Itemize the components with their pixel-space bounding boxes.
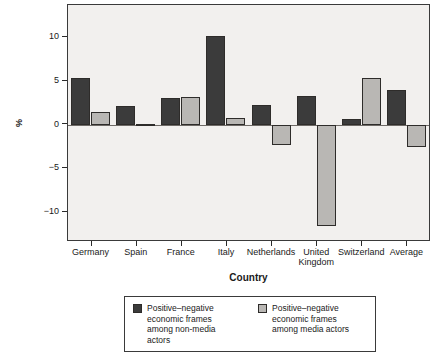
y-axis: 1050−5−10 xyxy=(38,0,67,250)
bar-italy-series2 xyxy=(226,118,245,125)
x-tick-mark xyxy=(181,241,182,246)
chart-legend: Positive–negativeeconomic framesamong no… xyxy=(124,296,376,352)
x-tick-mark xyxy=(226,241,227,246)
bar-netherlands-series1 xyxy=(252,105,271,125)
x-tick-mark xyxy=(316,241,317,246)
y-tick-0: 0 xyxy=(54,119,67,129)
x-tick-label-switzerland: Switzerland xyxy=(338,247,385,257)
bar-switzerland-series2 xyxy=(362,78,381,124)
y-tick-minus5: −5 xyxy=(49,162,67,172)
y-tick-label: 0 xyxy=(54,119,62,129)
bar-switzerland-series1 xyxy=(342,119,361,124)
y-tick-10: 10 xyxy=(49,31,67,41)
y-tick-label: 10 xyxy=(49,31,62,41)
bar-germany-series1 xyxy=(71,78,90,125)
legend-swatch-icon xyxy=(258,304,267,313)
x-tick-mark xyxy=(136,241,137,246)
x-tick-label-united-kingdom: UnitedKingdom xyxy=(298,247,334,267)
x-tick-label-germany: Germany xyxy=(72,247,109,257)
x-tick-label-netherlands: Netherlands xyxy=(247,247,296,257)
legend-item-label: Positive–negativeeconomic framesamong no… xyxy=(147,303,216,345)
y-tick-label: −10 xyxy=(44,206,62,216)
x-axis-label: Country xyxy=(67,272,430,283)
y-axis-label: % xyxy=(4,108,34,138)
bar-spain-series1 xyxy=(116,106,135,124)
bar-france-series1 xyxy=(161,98,180,125)
bar-average-series2 xyxy=(407,125,426,148)
bar-spain-series2 xyxy=(136,124,155,126)
x-tick-mark xyxy=(361,241,362,246)
bar-france-series2 xyxy=(181,97,200,125)
x-tick-label-france: France xyxy=(167,247,195,257)
x-tick-mark xyxy=(91,241,92,246)
plot-inner xyxy=(68,5,429,240)
legend-swatch-icon xyxy=(133,304,142,313)
x-axis: GermanySpainFranceItalyNetherlandsUnited… xyxy=(67,241,430,255)
x-tick-label-average: Average xyxy=(390,247,423,257)
x-tick-mark xyxy=(271,241,272,246)
legend-item-media: Positive–negativeeconomic framesamong me… xyxy=(258,303,373,335)
legend-item-non-media: Positive–negativeeconomic framesamong no… xyxy=(133,303,251,345)
bar-average-series1 xyxy=(387,90,406,125)
x-tick-label-spain: Spain xyxy=(124,247,147,257)
chart-figure: % 1050−5−10 GermanySpainFranceItalyNethe… xyxy=(0,0,437,361)
y-tick-label: 5 xyxy=(54,75,62,85)
plot-area xyxy=(67,4,430,241)
bar-italy-series1 xyxy=(206,36,225,125)
bar-united-kingdom-series1 xyxy=(297,96,316,125)
bar-netherlands-series2 xyxy=(272,125,291,145)
x-tick-mark xyxy=(406,241,407,246)
legend-item-label: Positive–negativeeconomic framesamong me… xyxy=(272,303,349,335)
y-tick-minus10: −10 xyxy=(44,206,67,216)
y-tick-label: −5 xyxy=(49,162,62,172)
y-tick-5: 5 xyxy=(54,75,67,85)
x-tick-label-italy: Italy xyxy=(218,247,235,257)
bar-united-kingdom-series2 xyxy=(317,125,336,226)
zero-line xyxy=(68,125,429,126)
bar-germany-series2 xyxy=(91,112,110,124)
